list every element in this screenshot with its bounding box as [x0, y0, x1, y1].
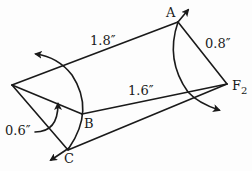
- arc-0.6-arrow-icon: [35, 104, 58, 132]
- label-1.6: 1.6″: [128, 84, 154, 97]
- link-A-F2: [178, 22, 227, 84]
- diagram-canvas: [0, 0, 252, 171]
- link-B-F2: [82, 84, 227, 114]
- point-label-A: A: [166, 6, 175, 19]
- label-0.8: 0.8″: [205, 37, 231, 50]
- point-label-F: F: [232, 78, 241, 93]
- arc-A-arrow-icon: [178, 10, 188, 22]
- link-L-B: [12, 85, 82, 114]
- point-label-B: B: [84, 117, 94, 130]
- link-L-C: [12, 85, 68, 150]
- point-label-F-subscript: 2: [241, 85, 247, 96]
- point-label-C: C: [64, 152, 74, 165]
- label-0.6: 0.6″: [5, 124, 31, 137]
- arc-B-C-arrow-icon: [36, 54, 83, 148]
- point-label-F2: F2: [232, 79, 247, 92]
- linkage-diagram: 1.8″ 0.8″ 1.6″ 0.6″ A B C F2: [0, 0, 252, 171]
- label-1.8: 1.8″: [90, 34, 116, 47]
